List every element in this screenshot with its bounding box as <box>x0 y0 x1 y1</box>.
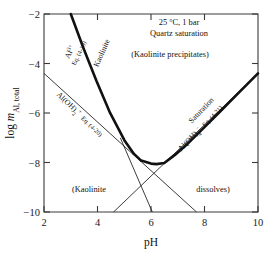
x-tick-label: 10 <box>253 217 264 228</box>
x-tick-label: 2 <box>41 217 46 228</box>
y-tick-label: −8 <box>29 158 40 169</box>
annotation-conditions-temperature: 25 °C, 1 bar <box>159 18 200 27</box>
svg-text:log mAl, total: log mAl, total <box>4 86 21 138</box>
y-tick-label: −10 <box>24 207 40 218</box>
chart-figure: −2 −4 −6 −8 −10 2 4 6 8 10 pH log mAl, t… <box>0 0 268 256</box>
annotation-region-dissolves-right: dissolves) <box>196 185 230 194</box>
annotation-conditions-quartz: Quartz saturation <box>150 29 209 38</box>
y-tick-label: −2 <box>29 9 40 20</box>
solubility-diagram: −2 −4 −6 −8 −10 2 4 6 8 10 pH log mAl, t… <box>0 0 268 256</box>
curve-label-aloh2-charge: + <box>77 108 83 114</box>
annotation-region-dissolves-left: (Kaolinite <box>72 185 106 194</box>
x-tick-label: 6 <box>148 217 153 228</box>
x-tick-label: 4 <box>95 217 101 228</box>
x-tick-label: 8 <box>202 217 207 228</box>
y-tick-label: −4 <box>29 59 41 70</box>
y-axis-title-subscript: Al, total <box>12 86 21 112</box>
curve-label-kaolinite-group: Kaolinite <box>92 37 112 68</box>
curve-label-al3-charge: 3+ <box>65 43 73 51</box>
y-tick-labels: −2 −4 −6 −8 −10 <box>24 9 41 218</box>
curve-label-aloh2-group: Al(OH)2+ Eq. (4-20) <box>53 89 105 140</box>
y-axis-title-prefix: log <box>4 121 17 139</box>
y-axis-title: log mAl, total <box>4 86 21 138</box>
y-tick-label: −6 <box>29 108 40 119</box>
curve-label-aloh2-equation: Eq. (4-20) <box>79 114 103 138</box>
curve-label-kaolinite: Kaolinite <box>92 37 112 68</box>
svg-text:Al(OH)2+ Eq. (4-20): Al(OH)2+ Eq. (4-20) <box>53 89 105 140</box>
annotation-region-precipitates: (Kaolinite precipitates) <box>131 50 209 59</box>
x-axis-title: pH <box>144 236 158 249</box>
x-tick-labels: 2 4 6 8 10 <box>41 217 263 228</box>
y-axis-title-variable: m <box>4 113 16 121</box>
